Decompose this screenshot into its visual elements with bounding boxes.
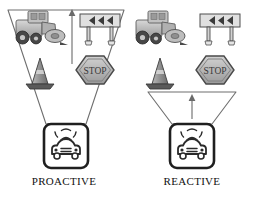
- car-front-icon: [170, 124, 214, 168]
- traffic-cone-icon: [146, 58, 174, 89]
- proactive-graphics: STOP: [0, 0, 128, 198]
- reactive-graphics: STOP: [128, 0, 256, 198]
- proactive-reactive-diagram: STOP: [0, 0, 256, 198]
- road-roller-icon: [136, 11, 188, 45]
- caption-proactive: PROACTIVE: [0, 175, 128, 188]
- panel-reactive: STOP: [128, 0, 256, 198]
- caption-reactive: REACTIVE: [128, 175, 256, 188]
- panel-proactive: STOP: [0, 0, 128, 198]
- stop-sign-text: STOP: [203, 66, 226, 76]
- car-front-icon: [44, 124, 88, 168]
- chevron-barricade-sign-icon: [200, 14, 240, 45]
- stop-sign-text: STOP: [83, 66, 106, 76]
- stop-sign-icon: STOP: [196, 56, 234, 84]
